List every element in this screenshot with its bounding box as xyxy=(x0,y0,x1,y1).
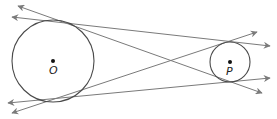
internal-tangent-line-1 xyxy=(18,6,262,93)
circle-o-group: O xyxy=(12,20,94,102)
tangent-lines xyxy=(8,6,270,113)
circle-o-label: O xyxy=(49,64,58,77)
circle-p-group: P xyxy=(210,42,250,82)
center-p-dot xyxy=(228,60,232,64)
tangent-circles-diagram: O P xyxy=(0,0,277,119)
center-o-dot xyxy=(51,59,55,63)
circle-p-label: P xyxy=(226,65,233,78)
